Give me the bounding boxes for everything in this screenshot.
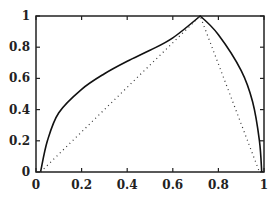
y-tick-label: 0.4 [9, 103, 30, 117]
tick-labels: 00.20.40.60.8100.20.40.60.81 [9, 9, 268, 192]
y-tick-label: 0.8 [9, 40, 30, 54]
x-tick-label: 0.6 [162, 178, 183, 192]
chart: 00.20.40.60.8100.20.40.60.81 [0, 0, 275, 203]
x-tick-label: 0.8 [208, 178, 229, 192]
x-tick-label: 1 [260, 178, 268, 192]
dotted-line [41, 16, 260, 172]
solid-curve [41, 16, 262, 172]
y-tick-label: 0 [22, 165, 30, 179]
x-tick-label: 0.2 [71, 178, 92, 192]
y-tick-label: 0.2 [9, 134, 30, 148]
x-tick-label: 0 [32, 178, 40, 192]
y-tick-label: 1 [22, 9, 30, 23]
x-tick-label: 0.4 [117, 178, 138, 192]
y-tick-label: 0.6 [9, 71, 30, 85]
